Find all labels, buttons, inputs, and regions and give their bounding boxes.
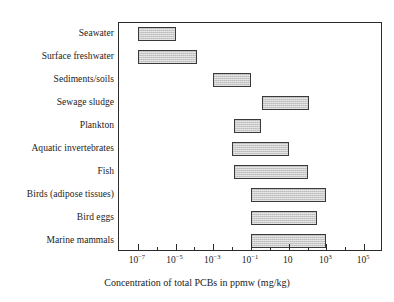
tick-label-base: 10 <box>283 255 293 265</box>
x-axis-major-tick <box>326 244 327 250</box>
x-axis-tick-label: 10−7 <box>129 254 145 266</box>
x-axis-tick-label: 10 <box>283 254 293 266</box>
category-label: Birds (adipose tissues) <box>0 189 114 199</box>
range-bar <box>251 211 317 225</box>
x-axis-title: Concentration of total PCBs in ppmw (mg/… <box>0 277 394 289</box>
x-axis-tick-label: 105 <box>357 254 370 266</box>
range-bar <box>138 50 197 64</box>
x-axis-tick-labels: 10−710−510−310−110103105 <box>118 254 382 270</box>
category-label: Surface freshwater <box>0 51 114 61</box>
tick-label-exponent: −3 <box>214 253 221 260</box>
category-label: Sewage sludge <box>0 97 114 107</box>
range-bar <box>262 96 309 110</box>
tick-label-exponent: −7 <box>138 253 145 260</box>
category-label: Aquatic invertebrates <box>0 143 114 153</box>
tick-label-exponent: −1 <box>251 253 258 260</box>
plot-area <box>118 22 382 251</box>
x-axis-tick-label: 10−1 <box>242 254 258 266</box>
tick-label-base: 10 <box>357 255 367 265</box>
tick-label-base: 10 <box>319 255 329 265</box>
tick-label-exponent: 5 <box>366 253 369 260</box>
x-axis-major-tick <box>176 244 177 250</box>
x-axis-minor-tick <box>194 247 195 251</box>
tick-label-base: 10 <box>129 255 139 265</box>
tick-label-exponent: −5 <box>176 253 183 260</box>
x-axis-minor-tick <box>270 247 271 251</box>
tick-label-base: 10 <box>242 255 252 265</box>
category-label: Bird eggs <box>0 212 114 222</box>
range-bar <box>232 142 289 156</box>
x-axis-major-tick <box>138 244 139 250</box>
x-axis-major-tick <box>251 244 252 250</box>
range-bar <box>251 188 326 202</box>
plot-inner <box>119 23 381 250</box>
x-axis-major-tick <box>213 244 214 250</box>
category-label: Seawater <box>0 28 114 38</box>
range-bar <box>234 165 308 179</box>
category-label: Fish <box>0 166 114 176</box>
x-axis-tick-label: 103 <box>319 254 332 266</box>
category-label: Marine mammals <box>0 235 114 245</box>
tick-label-exponent: 3 <box>329 253 332 260</box>
category-axis-labels: SeawaterSurface freshwaterSediments/soil… <box>0 22 114 251</box>
x-axis-minor-tick <box>345 247 346 251</box>
range-bar <box>138 27 176 41</box>
x-axis-major-tick <box>289 244 290 250</box>
x-axis-minor-tick <box>308 247 309 251</box>
x-axis-major-tick <box>364 244 365 250</box>
tick-label-base: 10 <box>166 255 176 265</box>
category-label: Plankton <box>0 120 114 130</box>
tick-label-base: 10 <box>204 255 214 265</box>
x-axis-minor-tick <box>157 247 158 251</box>
range-bar <box>234 119 262 133</box>
range-bar <box>213 73 251 87</box>
category-label: Sediments/soils <box>0 74 114 84</box>
x-axis-tick-label: 10−3 <box>204 254 220 266</box>
x-axis-tick-label: 10−5 <box>166 254 182 266</box>
x-axis-minor-tick <box>232 247 233 251</box>
figure: SeawaterSurface freshwaterSediments/soil… <box>0 0 394 302</box>
